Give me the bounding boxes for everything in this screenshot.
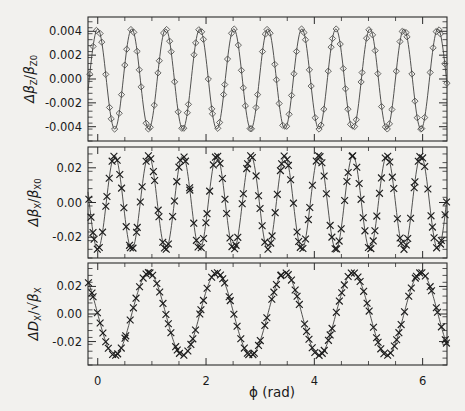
- data-point: [333, 309, 340, 316]
- data-point: [296, 301, 303, 308]
- data-point: [438, 323, 445, 330]
- data-point: [294, 293, 301, 300]
- data-point: [386, 159, 393, 166]
- data-point: [434, 309, 441, 316]
- data-point: [114, 157, 121, 164]
- data-point: [401, 308, 408, 315]
- y-tick-label: 0.004: [49, 24, 82, 38]
- data-point: [297, 244, 304, 251]
- y-tick-label: 0.000: [49, 72, 82, 86]
- data-point: [234, 323, 241, 330]
- data-point: [237, 335, 244, 342]
- x-tick-label: 4: [311, 374, 318, 388]
- figure-panel: -0.004-0.0020.0000.0020.004ΔβZ/βZ0-0.020…: [0, 0, 465, 411]
- y-axis-label-bottom: ΔDX/√βX: [25, 287, 43, 341]
- data-point: [395, 329, 402, 336]
- data-point: [249, 154, 256, 161]
- data-point: [270, 289, 277, 296]
- y-tick-label: 0.00: [56, 196, 82, 210]
- data-point: [433, 304, 440, 311]
- data-point: [391, 343, 398, 350]
- data-point: [318, 159, 325, 166]
- data-point: [303, 328, 310, 335]
- data-point: [96, 244, 103, 251]
- data-point: [284, 156, 291, 163]
- data-point: [398, 240, 405, 247]
- data-point: [105, 345, 112, 352]
- data-point: [160, 300, 167, 307]
- data-point: [200, 297, 207, 304]
- data-point: [153, 280, 160, 287]
- data-point: [136, 283, 143, 290]
- data-point: [393, 336, 400, 343]
- data-point: [114, 350, 121, 357]
- data-point: [327, 332, 334, 339]
- panel-top: -0.004-0.0020.0000.0020.004ΔβZ/βZ0: [21, 17, 450, 141]
- multi-panel-oscillation-plot: -0.004-0.0020.0000.0020.004ΔβZ/βZ0-0.020…: [0, 0, 465, 411]
- x-tick-label: 6: [419, 374, 426, 388]
- y-tick-label: -0.002: [45, 96, 82, 110]
- data-point: [360, 288, 367, 295]
- data-point: [365, 244, 372, 251]
- data-point: [97, 320, 104, 327]
- y-axis-label-top: ΔβZ/βZ0: [21, 55, 39, 104]
- x-tick-label: 2: [202, 374, 209, 388]
- data-point: [263, 314, 270, 321]
- data-point: [217, 272, 224, 279]
- data-point: [405, 293, 412, 300]
- data-point: [306, 336, 313, 343]
- data-point: [118, 345, 125, 352]
- data-point: [329, 325, 336, 332]
- y-tick-label: -0.02: [52, 230, 82, 244]
- data-point: [273, 281, 280, 288]
- data-point: [167, 329, 174, 336]
- data-point: [230, 311, 237, 318]
- data-point: [301, 321, 308, 328]
- data-point: [398, 321, 405, 328]
- y-tick-label: 0.02: [56, 279, 82, 293]
- data-point: [265, 246, 272, 253]
- data-point: [127, 317, 134, 324]
- data-point: [192, 327, 199, 334]
- data-point: [163, 311, 170, 318]
- data-point: [133, 295, 140, 302]
- y-tick-label: -0.02: [52, 335, 82, 349]
- data-point: [189, 335, 196, 342]
- y-tick-label: 0.02: [56, 161, 82, 175]
- panel-frame-middle: [88, 147, 447, 258]
- data-point: [408, 285, 415, 292]
- data-curve-middle: [88, 156, 447, 250]
- data-point: [419, 154, 426, 161]
- panel-middle: -0.020.000.02ΔβX/βX0: [25, 147, 450, 258]
- data-point: [325, 337, 332, 344]
- data-curve-top: [88, 29, 447, 129]
- data-point: [367, 245, 374, 252]
- y-tick-label: -0.004: [45, 120, 82, 134]
- data-point: [130, 304, 137, 311]
- data-point: [336, 298, 343, 305]
- data-point: [349, 152, 356, 159]
- x-axis-label: ϕ (rad): [249, 384, 295, 400]
- y-axis-label-middle: ΔβX/βX0: [25, 178, 43, 227]
- data-point: [338, 289, 345, 296]
- data-point: [370, 324, 377, 331]
- data-point: [292, 287, 299, 294]
- data-point: [268, 296, 275, 303]
- data-point: [364, 300, 371, 307]
- data-point: [341, 282, 348, 289]
- data-point: [204, 285, 211, 292]
- data-point: [184, 348, 191, 355]
- data-point: [159, 239, 166, 246]
- data-point: [267, 240, 274, 247]
- data-point: [261, 322, 268, 329]
- data-point: [102, 338, 109, 345]
- data-point: [384, 153, 391, 160]
- data-point: [187, 341, 194, 348]
- data-point: [321, 347, 328, 354]
- y-tick-label: 0.002: [49, 48, 82, 62]
- data-point: [156, 289, 163, 296]
- data-point: [100, 330, 107, 337]
- x-tick-label: 0: [94, 374, 101, 388]
- data-point: [165, 320, 172, 327]
- panel-bottom: -0.020.000.02ΔDX/√βX: [25, 263, 450, 365]
